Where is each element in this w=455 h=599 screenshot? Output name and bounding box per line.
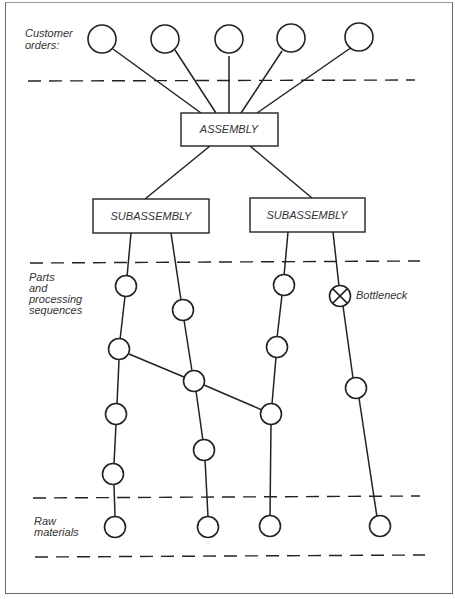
edge-subl-p1 [127,233,131,277]
raw-material-node [370,516,391,537]
edge-p5-p7 [196,391,203,441]
raw-material-node [198,517,219,538]
edge-assembly-sub-right [250,146,312,198]
edge-p5-p10 [204,385,262,410]
edge-subr-p8 [284,232,288,276]
edge-p8-p9 [277,295,282,338]
edge-co2-assembly [175,50,216,113]
edge-p3-p4 [117,360,119,404]
edge-assembly-sub-left [145,146,210,199]
edge-subr-bn [333,232,339,286]
edge-p6-rm1 [114,484,115,517]
edge-p2-p5 [184,320,192,371]
part-node [261,404,282,425]
part-node [103,464,124,485]
raw-materials-label-line2: materials [34,526,79,538]
divider-raw-bottom [35,555,425,557]
customer-orders-label-line1: Customer [25,27,74,39]
production-flow-diagram: ASSEMBLY SUBASSEMBLY SUBASSEMBLY Bottlen… [0,0,455,599]
edge-subl-p2 [171,233,181,300]
edge-p10-rm3 [270,424,271,517]
part-node [106,404,127,425]
part-node [116,276,137,297]
edge-p3-p5 [129,354,184,377]
customer-order-node [151,25,179,53]
edge-bn-p12 [343,306,353,378]
part-node [346,378,367,399]
customer-order-node [345,23,373,51]
part-node [109,339,130,360]
customer-order-node [88,25,116,53]
part-node [194,440,215,461]
part-node [184,371,205,392]
edge-p4-p6 [114,424,116,464]
divider-raw-top [33,496,420,498]
part-node [173,300,194,321]
edge-p1-p3 [120,296,125,340]
parts-label-line4: sequences [29,304,83,316]
edge-p12-rm4 [359,398,377,517]
subassembly-left-label: SUBASSEMBLY [111,210,193,222]
raw-material-node [260,516,281,537]
bottleneck-node [330,286,351,307]
part-node [274,275,295,296]
customer-order-node [277,24,305,52]
bottleneck-label: Bottleneck [356,289,408,301]
subassembly-right-label: SUBASSEMBLY [267,209,349,221]
edge-p7-rm2 [205,459,208,517]
divider-subassembly [30,261,420,263]
edge-p9-p10 [272,357,276,404]
divider-orders [28,80,415,81]
part-node [267,337,288,358]
assembly-label: ASSEMBLY [199,123,259,135]
raw-material-node [105,517,126,538]
customer-order-node [215,25,243,53]
customer-orders-label-line2: orders: [25,39,59,51]
edge-co4-assembly [241,51,282,113]
